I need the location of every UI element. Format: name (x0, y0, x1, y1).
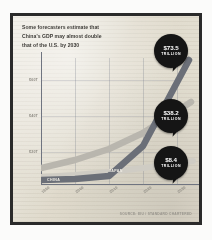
y-tick-label: $20T (29, 150, 38, 154)
callout-disc (154, 34, 188, 68)
callout-unit: TRILLION (154, 164, 188, 168)
callout-disc (154, 99, 188, 133)
callout-unit: TRILLION (154, 117, 188, 121)
photo-frame: Some forecasters estimate that China's G… (10, 13, 202, 225)
y-tick-label: $40T (29, 114, 38, 118)
series-label-china: CHINA (47, 178, 60, 182)
china-2030-callout: $73.5 TRILLION (154, 34, 188, 68)
us-2030-callout: $38.2 TRILLION (154, 99, 188, 133)
callout-amount: $73.5 (154, 44, 188, 51)
headline-line-2: China's GDP may almost double (22, 32, 130, 41)
chart-screenshot: Some forecasters estimate that China's G… (0, 0, 212, 240)
page-title: Some forecasters estimate that China's G… (22, 23, 130, 49)
callout-unit: TRILLION (154, 52, 188, 56)
y-tick-label: $60T (29, 78, 38, 82)
series-label-japan: JAPAN (109, 169, 123, 173)
japan-2030-callout: $8.4 TRILLION (154, 146, 188, 180)
callout-disc (154, 146, 188, 180)
callout-amount: $38.2 (154, 109, 188, 116)
callout-amount: $8.4 (154, 156, 188, 163)
headline-line-3: that of the U.S. by 2030 (22, 41, 130, 50)
source-note: SOURCE: EIU / STANDARD CHARTERED (120, 212, 192, 216)
newsprint-page: Some forecasters estimate that China's G… (13, 16, 199, 222)
headline-line-1: Some forecasters estimate that (22, 23, 130, 32)
